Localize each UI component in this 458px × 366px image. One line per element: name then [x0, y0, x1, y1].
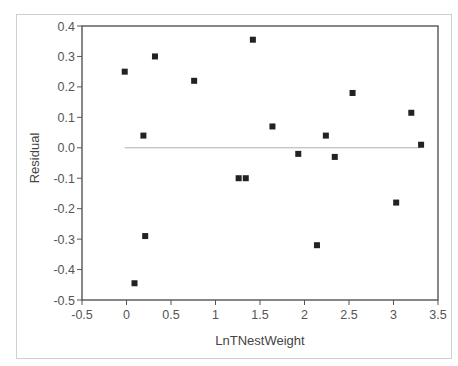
- data-point-marker: [350, 90, 356, 96]
- y-tick-label: 0.4: [58, 20, 75, 34]
- data-point-marker: [314, 242, 320, 248]
- y-axis-title: Residual: [27, 133, 42, 184]
- x-tick-label: 1: [212, 308, 219, 322]
- y-tick-label: -0.2: [53, 202, 75, 216]
- data-point-marker: [122, 69, 128, 75]
- x-tick-label: 3: [390, 308, 397, 322]
- data-point-marker: [243, 175, 249, 181]
- data-point-marker: [236, 175, 242, 181]
- data-point-marker: [152, 53, 158, 59]
- x-axis-title: LnTNestWeight: [215, 333, 305, 348]
- x-tick-label: 1.5: [251, 308, 268, 322]
- data-point-marker: [323, 133, 329, 139]
- data-point-marker: [191, 78, 197, 84]
- y-tick-label: 0.0: [58, 141, 75, 155]
- data-point-marker: [142, 233, 148, 239]
- data-point-marker: [140, 133, 146, 139]
- data-point-marker: [250, 37, 256, 43]
- x-tick-label: 2: [301, 308, 308, 322]
- x-tick-label: 2.5: [340, 308, 357, 322]
- plot-area-frame: [82, 26, 438, 300]
- y-tick-label: -0.3: [53, 233, 75, 247]
- x-tick-label: 0.5: [162, 308, 179, 322]
- x-tick-label: -0.5: [71, 308, 93, 322]
- y-tick-label: -0.1: [53, 172, 75, 186]
- data-point-marker: [295, 151, 301, 157]
- y-tick-label: -0.4: [53, 263, 75, 277]
- data-points: [122, 37, 424, 287]
- x-tick-label: 3.5: [429, 308, 446, 322]
- data-point-marker: [132, 280, 138, 286]
- y-axis: 0.40.30.20.10.0-0.1-0.2-0.3-0.4-0.5: [53, 20, 82, 308]
- y-tick-label: 0.1: [58, 111, 75, 125]
- data-point-marker: [418, 142, 424, 148]
- y-tick-label: 0.2: [58, 80, 75, 94]
- y-tick-label: -0.5: [53, 294, 75, 308]
- data-point-marker: [269, 123, 275, 129]
- y-tick-label: 0.3: [58, 50, 75, 64]
- residual-scatter-plot: 0.40.30.20.10.0-0.1-0.2-0.3-0.4-0.5 -0.5…: [0, 0, 458, 366]
- x-tick-label: 0: [123, 308, 130, 322]
- data-point-marker: [332, 154, 338, 160]
- data-point-marker: [393, 200, 399, 206]
- data-point-marker: [408, 110, 414, 116]
- x-axis: -0.500.511.522.533.5: [71, 300, 447, 322]
